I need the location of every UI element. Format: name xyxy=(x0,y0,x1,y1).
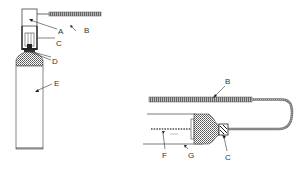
capillary-tube-top xyxy=(149,97,252,102)
label-d: D xyxy=(52,57,58,66)
label-e: E xyxy=(54,79,59,88)
label-g: G xyxy=(188,151,194,160)
left-view: A B C D E xyxy=(16,9,101,149)
label-a: A xyxy=(58,27,64,36)
label-c: C xyxy=(56,39,62,48)
label-c-right: C xyxy=(225,153,231,162)
gauge-housing xyxy=(22,9,37,26)
right-view: B C F G xyxy=(143,77,292,162)
label-b-right: B xyxy=(225,77,230,86)
diagram-canvas: A B C D E B C F xyxy=(0,0,307,170)
canister-body xyxy=(16,66,43,149)
canister-dome xyxy=(16,52,43,66)
canister-dome-side xyxy=(194,114,219,144)
label-b: B xyxy=(84,26,89,35)
label-f: F xyxy=(162,151,167,160)
capillary-tube xyxy=(49,12,101,16)
capillary-loop xyxy=(227,100,292,130)
valve-stem xyxy=(27,44,32,48)
